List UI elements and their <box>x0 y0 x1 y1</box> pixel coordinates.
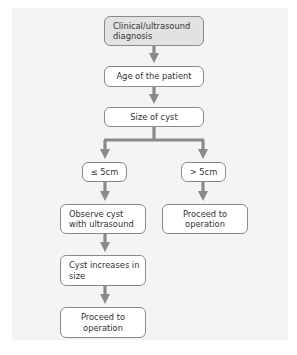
node-label: Proceed to operation <box>181 209 229 230</box>
node-clinical-ultrasound-diagnosis: Clinical/ultrasound diagnosis <box>104 16 204 46</box>
node-size-of-cyst: Size of cyst <box>104 107 204 127</box>
node-label: Age of the patient <box>116 71 191 82</box>
node-label: ≤ 5cm <box>91 167 119 178</box>
node-cyst-increases: Cyst increases in size <box>60 255 146 286</box>
node-age-of-patient: Age of the patient <box>104 66 204 87</box>
node-size-le-5cm: ≤ 5cm <box>82 162 127 182</box>
node-observe-cyst: Observe cyst with ultrasound <box>60 204 146 234</box>
flow-arrows <box>0 0 297 355</box>
node-label: Proceed to operation <box>77 312 129 333</box>
node-label: Cyst increases in size <box>69 260 140 281</box>
node-proceed-operation-large: Proceed to operation <box>162 204 248 234</box>
node-label: > 5cm <box>190 167 218 178</box>
node-label: Clinical/ultrasound diagnosis <box>113 21 198 42</box>
node-proceed-operation-small: Proceed to operation <box>60 307 146 338</box>
node-label: Observe cyst with ultrasound <box>69 209 140 230</box>
node-label: Size of cyst <box>130 112 177 123</box>
node-size-gt-5cm: > 5cm <box>181 162 226 182</box>
